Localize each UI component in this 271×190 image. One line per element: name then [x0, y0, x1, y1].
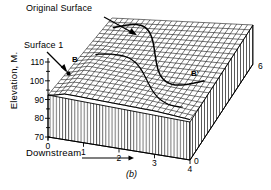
x-tick-label: 3: [152, 158, 157, 168]
x-axis-tick-labels: 0123406: [0, 0, 271, 190]
figure-container: Original Surface Surface 1 B B' Downstre…: [0, 0, 271, 190]
x-tick-label: 0: [46, 141, 51, 151]
x-tick-label: 2: [117, 153, 122, 163]
x-tick-label: 4: [188, 164, 193, 174]
z-tick-label: 0: [194, 156, 199, 166]
x-tick-label: 1: [81, 147, 86, 157]
z-tick-label: 6: [258, 61, 263, 71]
